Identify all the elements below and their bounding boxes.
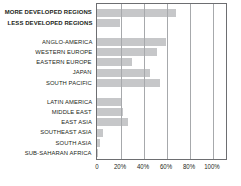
bar (97, 108, 123, 116)
x-tick-label: 60% (160, 163, 172, 171)
bar (97, 129, 103, 137)
x-tick-label: 20% (114, 163, 126, 171)
x-axis: 020%40%60%80%100% (96, 161, 227, 173)
category-label-column: MORE DEVELOPED REGIONSLESS DEVELOPED REG… (0, 0, 96, 160)
x-tick-label: 40% (137, 163, 149, 171)
bar (97, 58, 132, 66)
bar (97, 48, 157, 56)
category-label: EASTERN EUROPE (37, 57, 92, 66)
x-tick-label: 0 (95, 163, 98, 171)
gridline-60 (167, 4, 168, 159)
bar (97, 139, 100, 147)
bar (97, 149, 98, 157)
gridline-20 (121, 4, 122, 159)
category-label: MORE DEVELOPED REGIONS (5, 7, 92, 16)
category-label: SUB-SAHARAN AFRICA (25, 148, 92, 157)
gridline-80 (190, 4, 191, 159)
gridline-100 (213, 4, 214, 159)
plot-area (96, 3, 227, 160)
category-label: LATIN AMERICA (47, 97, 92, 106)
bar (97, 118, 128, 126)
category-label: MIDDLE EAST (52, 107, 92, 116)
category-label: EAST ASIA (61, 117, 92, 126)
gridline-40 (144, 4, 145, 159)
bar (97, 19, 120, 27)
horizontal-bar-chart: MORE DEVELOPED REGIONSLESS DEVELOPED REG… (0, 0, 241, 186)
bar (97, 38, 166, 46)
category-label: WESTERN EUROPE (35, 47, 92, 56)
category-label: ANGLO-AMERICA (42, 37, 92, 46)
category-label: SOUTH PACIFIC (46, 78, 92, 87)
category-label: SOUTHEAST ASIA (40, 127, 92, 136)
x-tick-label: 100% (204, 163, 220, 171)
x-tick-label: 80% (183, 163, 195, 171)
bar-series (97, 4, 226, 159)
bar (97, 9, 176, 17)
category-label: JAPAN (73, 67, 92, 76)
bar (97, 79, 160, 87)
bar (97, 69, 150, 77)
category-label: SOUTH ASIA (56, 138, 92, 147)
bar (97, 98, 121, 106)
category-label: LESS DEVELOPED REGIONS (7, 18, 92, 27)
